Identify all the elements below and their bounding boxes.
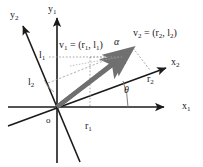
guide-r2-projection: [133, 48, 150, 70]
axis-label-y2: y2: [10, 10, 19, 22]
component-label-l1-sub: 1: [42, 54, 46, 62]
component-label-r1-sub: 1: [88, 125, 92, 133]
guide-l2-diagonal: [48, 50, 131, 83]
vector-equation-v1: v1 = (r1, l1): [59, 40, 103, 52]
vector-v2: [57, 51, 129, 107]
v2-eq-open: = (r: [142, 27, 159, 38]
component-label-l1: l1: [39, 50, 45, 62]
v1-eq-close: ): [100, 39, 103, 50]
component-label-l2: l2: [28, 77, 34, 89]
v1-eq-open: = (r: [68, 39, 85, 50]
axis-label-y2-sub: 2: [15, 14, 19, 22]
component-label-l2-sub: 2: [31, 81, 35, 89]
angle-label-theta: θ: [124, 85, 129, 95]
v2-eq-close: ): [174, 27, 177, 38]
axis-label-x2-sub: 2: [176, 61, 180, 69]
axis-label-y1: y1: [48, 4, 57, 16]
axis-label-x2: x2: [171, 57, 180, 69]
axis-label-x1-sub: 1: [187, 105, 191, 113]
v1-eq-mid: , l: [88, 39, 96, 50]
v2-eq-mid: , l: [162, 27, 170, 38]
vector-equation-v2: v2 = (r2, l2): [133, 28, 177, 40]
component-label-r1: r1: [85, 121, 92, 133]
component-label-r2-sub: 2: [150, 78, 154, 86]
origin-label: o: [46, 116, 51, 125]
axis-label-x1: x1: [182, 101, 191, 113]
component-label-r2: r2: [147, 74, 154, 86]
axis-label-y1-sub: 1: [53, 8, 57, 16]
angle-label-alpha: α: [114, 37, 119, 47]
vector-coordinate-diagram: x1 y1 x2 y2 o l1 l2 r1 r2 θ α v1 = (r1, …: [0, 0, 203, 167]
